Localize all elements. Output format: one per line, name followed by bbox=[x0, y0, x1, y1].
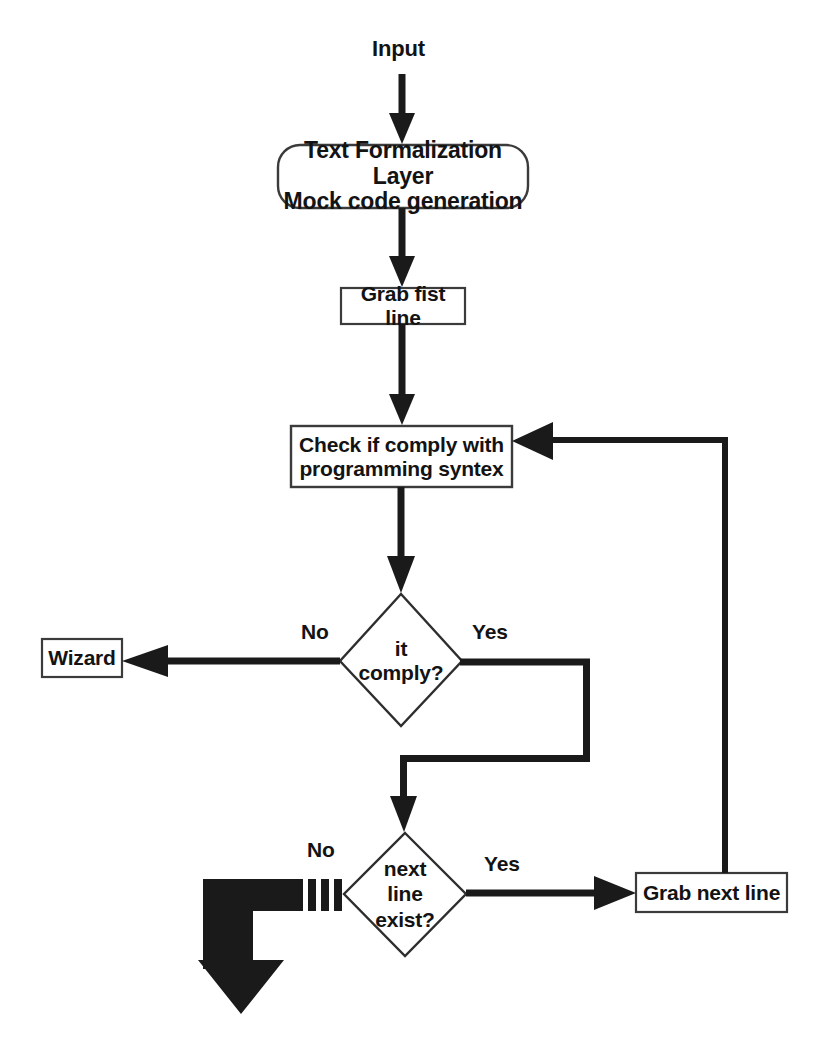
connector-check-to-it-comply bbox=[387, 487, 415, 593]
connector-input-to-formalization bbox=[389, 74, 415, 144]
node-shape-it-comply[interactable] bbox=[340, 594, 462, 726]
flowchart-canvas: Wizard --> next line exist? (right, down… bbox=[0, 0, 832, 1046]
connector-next-line-yes-to-grab-next bbox=[466, 876, 636, 910]
node-shape-wizard[interactable] bbox=[42, 639, 122, 677]
node-shape-next-line-exist[interactable] bbox=[344, 833, 466, 956]
node-shape-formalization[interactable] bbox=[278, 145, 528, 208]
node-shape-check-syntax[interactable] bbox=[291, 426, 512, 487]
connector-next-line-no-exit bbox=[198, 879, 342, 1014]
node-shape-grab-first-line[interactable] bbox=[341, 288, 465, 324]
flowchart-vector-layer: Wizard --> next line exist? (right, down… bbox=[0, 0, 832, 1046]
node-shape-grab-next-line[interactable] bbox=[636, 873, 787, 912]
connector-it-comply-no-to-wizard bbox=[122, 645, 340, 677]
connector-formalization-to-grab-first bbox=[389, 208, 415, 287]
connector-grab-first-to-check bbox=[389, 324, 415, 425]
connector-grab-next-to-check bbox=[512, 422, 728, 873]
